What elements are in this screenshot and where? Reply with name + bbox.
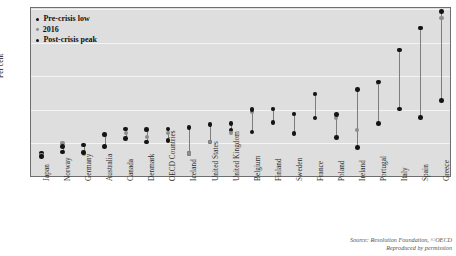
x-tick-label: Italy (401, 167, 409, 181)
source-note: Source: Resolution Foundation, ©OECD Rep… (350, 236, 452, 252)
source-line-2: Reproduced by permission (350, 244, 452, 252)
legend: Pre-crisis low2016Post-crisis peak (36, 14, 97, 46)
x-tick-label: Greece (443, 160, 451, 181)
x-tick-label: Iceland (190, 159, 198, 181)
legend-label: Pre-crisis low (43, 14, 89, 25)
x-tick-label: France (317, 161, 325, 181)
y-axis-label: Per cent (0, 54, 5, 78)
source-line-1: Source: Resolution Foundation, ©OECD (350, 236, 452, 244)
x-tick-label: United Kingdom (233, 131, 241, 181)
x-tick-label: Denmark (148, 154, 156, 181)
legend-dot-icon (36, 39, 39, 42)
x-tick-label: Portugal (380, 156, 388, 181)
x-tick-label: Belgium (254, 156, 262, 181)
x-tick-label: Australia (106, 154, 114, 181)
x-tick-label: Norway (64, 157, 72, 181)
x-tick-label: Japan (43, 164, 51, 181)
x-tick-label: Ireland (359, 160, 367, 181)
x-tick-label: Spain (422, 164, 430, 181)
chart-root: 01020304050 Per cent Pre-crisis low2016P… (0, 0, 456, 256)
x-tick-label: Sweden (296, 158, 304, 181)
x-tick-label: OECD Countries (169, 130, 177, 181)
legend-label: 2016 (43, 25, 59, 36)
legend-label: Post-crisis peak (43, 35, 97, 46)
legend-dot-icon (36, 28, 39, 31)
legend-item-2: Post-crisis peak (36, 35, 97, 46)
x-tick-label: Poland (338, 160, 346, 181)
legend-dot-icon (36, 18, 39, 21)
x-tick-label: Finland (275, 158, 283, 181)
x-tick-label: United States (212, 141, 220, 181)
legend-item-1: 2016 (36, 25, 97, 36)
x-tick-label: Canada (127, 159, 135, 181)
legend-item-0: Pre-crisis low (36, 14, 97, 25)
x-tick-label: Germany (85, 154, 93, 181)
